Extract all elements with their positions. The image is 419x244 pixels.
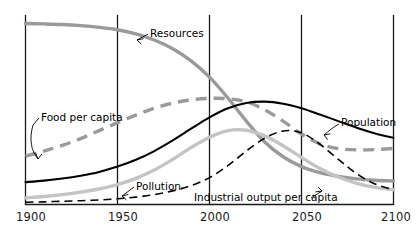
x-tick-2100: 2100 xyxy=(381,210,411,224)
arrowhead-population xyxy=(324,134,330,140)
x-tick-1900: 1900 xyxy=(16,210,46,224)
arrowhead-resources xyxy=(137,39,144,45)
series-label-pollution: Pollution xyxy=(136,180,181,192)
x-tick-2000: 2000 xyxy=(200,210,230,224)
series-label-population: Population xyxy=(341,116,396,128)
arrowhead-food-per-capita xyxy=(36,153,42,159)
series-label-resources: Resources xyxy=(150,27,204,39)
x-tick-1950: 1950 xyxy=(108,210,138,224)
world-model-chart: 1900 1950 2000 2050 2100 Resources Food … xyxy=(0,0,419,244)
series-label-food-per-capita: Food per capita xyxy=(41,111,123,123)
series-label-industrial-output: Industrial output per capita xyxy=(194,191,338,203)
leader-population xyxy=(324,124,339,135)
x-tick-2050: 2050 xyxy=(292,210,322,224)
